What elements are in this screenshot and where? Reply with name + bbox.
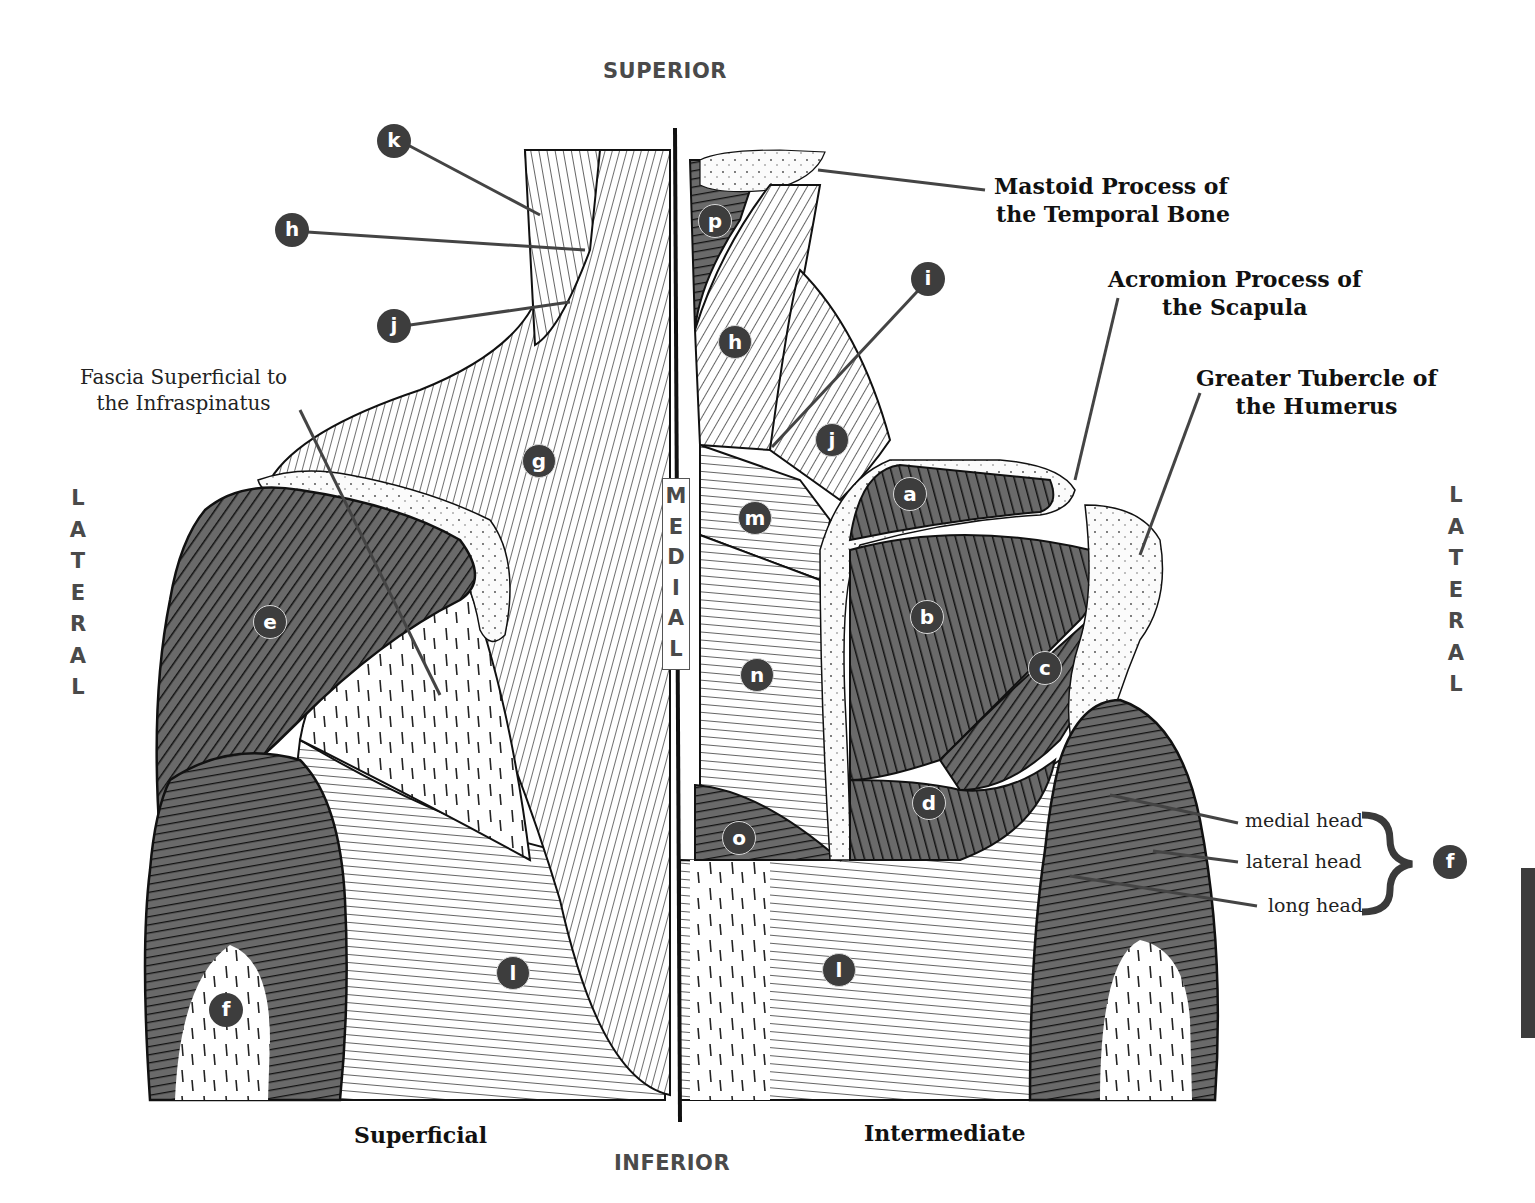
orientation-medial: M E D I A L [662,478,690,670]
marker-g-left: g [522,444,556,478]
marker-e-left: e [253,605,287,639]
marker-j-left: j [377,309,411,343]
label-medial-head: medial head [1245,809,1363,831]
callout-greater-tubercle: Greater Tubercle of the Humerus [1196,364,1437,420]
callout-fascia-infraspinatus: Fascia Superficial to the Infraspinatus [80,364,287,416]
callout-acromion-process: Acromion Process of the Scapula [1108,265,1361,321]
marker-l-left: l [496,956,530,990]
marker-h-right: h [718,325,752,359]
orientation-lateral-right: L A T E R A L [1444,480,1468,701]
marker-j-right: j [815,423,849,457]
marker-d-right: d [912,786,946,820]
marker-k-left: k [377,124,411,158]
marker-c-right: c [1028,651,1062,685]
label-lateral-head: lateral head [1246,850,1362,872]
orientation-inferior: INFERIOR [614,1151,730,1175]
marker-f-left: f [209,993,243,1027]
marker-i-right: i [911,262,945,296]
marker-o-right: o [722,821,756,855]
marker-m-right: m [738,501,772,535]
marker-l-right: l [822,953,856,987]
orientation-superior: SUPERIOR [603,59,727,83]
label-long-head: long head [1268,894,1363,916]
marker-p-right: p [698,204,732,238]
marker-f-right: f [1433,845,1467,879]
marker-b-right: b [910,600,944,634]
view-label-intermediate: Intermediate [864,1120,1025,1146]
page-edge-tab [1521,868,1535,1038]
marker-n-right: n [740,658,774,692]
callout-mastoid-process: Mastoid Process of the Temporal Bone [994,172,1230,228]
view-label-superficial: Superficial [354,1122,487,1148]
triceps-brace [1362,815,1412,912]
marker-h-left: h [275,213,309,247]
orientation-lateral-left: L A T E R A L [66,483,90,704]
marker-a-right: a [893,477,927,511]
